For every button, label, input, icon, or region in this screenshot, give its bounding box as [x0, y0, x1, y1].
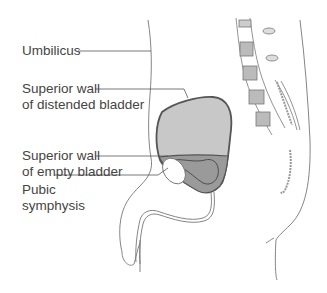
label-umbilicus: Umbilicus	[22, 43, 81, 59]
label-superior-wall-empty-1: Superior wall	[22, 148, 100, 164]
abdominal-wall-outline	[120, 20, 152, 265]
leader-distended-bend	[184, 89, 188, 98]
urethra	[136, 192, 215, 264]
label-superior-wall-empty-2: of empty bladder	[22, 164, 123, 180]
label-pubic-symphysis-2: symphysis	[22, 198, 85, 214]
spine-icon	[236, 18, 300, 193]
label-superior-wall-distended-2: of distended bladder	[22, 97, 144, 113]
label-superior-wall-distended-1: Superior wall	[22, 81, 100, 97]
label-pubic-symphysis-1: Pubic	[22, 182, 56, 198]
